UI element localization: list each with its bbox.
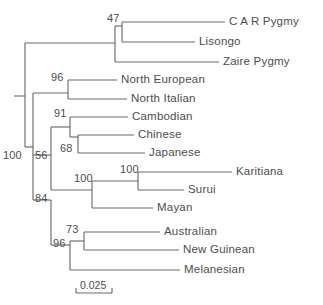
tip-label-japanese: Japanese (149, 147, 200, 159)
support-value-node-asian-amerind: 56 (35, 150, 47, 161)
support-value-node-oceanic: 84 (35, 193, 47, 204)
tip-label-karitiana: Karitiana (236, 166, 283, 178)
scale-bar-label: 0.025 (80, 280, 106, 291)
support-value-node-melanesian: 96 (53, 238, 65, 249)
tip-label-melanesian: Melanesian (184, 264, 245, 276)
phylogenetic-tree-figure: 4710096569168100100849673C A R PygmyLiso… (0, 0, 323, 305)
tip-label-cambodian: Cambodian (132, 111, 193, 123)
tip-label-surui: Surui (188, 184, 216, 196)
tip-label-mayan: Mayan (157, 202, 193, 214)
tip-label-lisongo: Lisongo (199, 36, 241, 48)
support-value-node-asian: 91 (54, 108, 66, 119)
tip-label-car-pygmy: C A R Pygmy (229, 16, 299, 28)
tip-label-north-italian: North Italian (131, 93, 196, 105)
support-value-node-eurasian: 100 (3, 150, 22, 161)
support-value-node-aus-ng: 73 (66, 224, 78, 235)
tip-label-zaire-pygmy: Zaire Pygmy (223, 56, 290, 68)
tip-label-australian: Australian (164, 226, 217, 238)
support-value-node-chin-jap: 68 (60, 143, 72, 154)
tip-label-chinese: Chinese (138, 129, 182, 141)
support-value-node-kari-surui: 100 (120, 164, 139, 175)
support-value-node-amerindian: 100 (74, 173, 93, 184)
support-value-node-european: 96 (51, 72, 63, 83)
tip-label-north-european: North European (121, 74, 205, 86)
support-value-node-car-lisongo: 47 (107, 13, 119, 24)
tip-label-new-guinean: New Guinean (183, 244, 255, 256)
